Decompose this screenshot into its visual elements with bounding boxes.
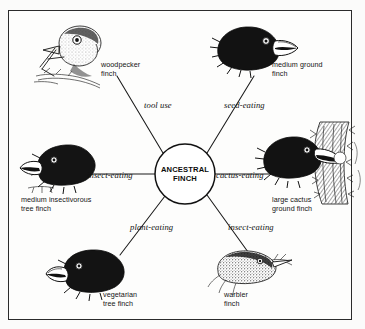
woodpecker-finch-illustration xyxy=(34,26,101,88)
edge-label-insect-eating-left: insect-eating xyxy=(87,170,133,180)
edge-line-tool-use xyxy=(117,76,163,153)
warbler-finch-illustration xyxy=(208,251,292,295)
finch-radiation-diagram: ANCESTRAL FINCH tool use seed-eating cac… xyxy=(0,0,365,329)
large-cactus-ground-finch-illustration xyxy=(255,122,360,204)
species-label-medium-insectivorous-tree-finch: medium insectivorous tree finch xyxy=(21,196,92,213)
species-label-warbler-finch: warbler finch xyxy=(224,291,248,308)
edge-label-cactus-eating: cactus-eating xyxy=(216,170,264,180)
edge-line-seed-eating xyxy=(207,76,254,153)
medium-insectivorous-tree-finch-illustration xyxy=(20,145,95,194)
edge-label-plant-eating: plant-eating xyxy=(130,222,173,232)
species-label-medium-ground-finch: medium ground finch xyxy=(272,61,323,78)
species-label-vegetarian-tree-finch: vegetarian tree finch xyxy=(103,291,137,308)
ancestral-finch-label: ANCESTRAL FINCH xyxy=(154,165,216,184)
edge-label-seed-eating: seed-eating xyxy=(224,100,265,110)
species-label-woodpecker-finch: woodpecker finch xyxy=(101,61,140,78)
species-label-large-cactus-ground-finch: large cactus ground finch xyxy=(272,196,312,213)
edge-label-insect-eating-right: insect-eating xyxy=(228,222,274,232)
edge-label-tool-use: tool use xyxy=(144,100,172,110)
